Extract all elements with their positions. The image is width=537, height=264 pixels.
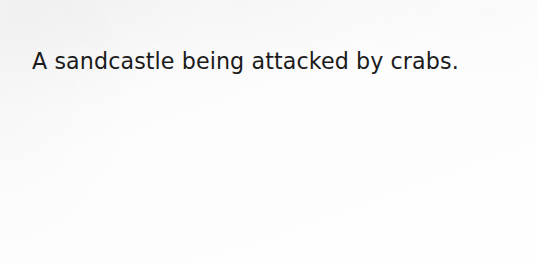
caption-text: A sandcastle being attacked by crabs. [32,46,459,76]
paper-texture-overlay [0,0,537,264]
image-canvas: A sandcastle being attacked by crabs. [0,0,537,264]
caption-line: A sandcastle being attacked by crabs. [32,41,517,81]
